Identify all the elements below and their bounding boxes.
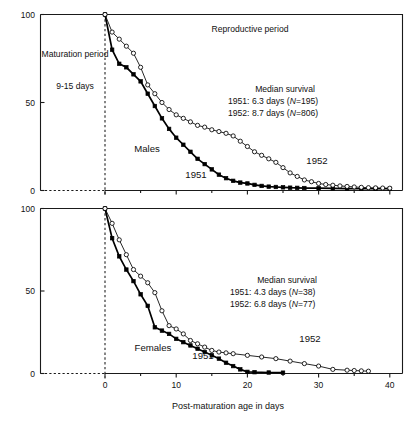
marker-1951 [174, 337, 178, 341]
marker-1952 [338, 184, 342, 188]
marker-1951 [288, 186, 292, 190]
marker-1951 [110, 236, 114, 240]
marker-1952 [345, 368, 349, 372]
marker-1952 [366, 369, 370, 373]
marker-1952 [167, 324, 171, 328]
marker-1951 [139, 293, 143, 297]
marker-1952 [274, 160, 278, 164]
curve-label-1952: 1952 [299, 333, 320, 344]
panel-males: 100500Maturation period9-15 daysReproduc… [21, 10, 403, 196]
marker-1951 [132, 73, 136, 77]
maturation-period-duration: 9-15 days [56, 81, 94, 91]
marker-1951 [253, 183, 257, 187]
marker-1952 [210, 128, 214, 132]
marker-1951 [239, 368, 243, 372]
marker-1952 [359, 369, 363, 373]
y-tick-label: 50 [26, 98, 36, 108]
marker-1952 [267, 157, 271, 161]
marker-1952 [331, 367, 335, 371]
marker-1952 [260, 355, 264, 359]
marker-1951 [246, 182, 250, 186]
marker-1952 [217, 350, 221, 354]
marker-1952 [124, 44, 128, 48]
panel-females: 100500Females19511952Median survival1951… [21, 204, 403, 379]
marker-1951 [295, 186, 299, 190]
marker-1951 [174, 136, 178, 140]
marker-1952 [359, 185, 363, 189]
marker-1951 [125, 66, 129, 70]
median-survival-title: Median survival [255, 84, 315, 94]
marker-1952 [288, 171, 292, 175]
marker-1951 [125, 268, 129, 272]
marker-1951 [267, 185, 271, 189]
y-tick-label: 50 [26, 286, 36, 296]
marker-1951 [253, 370, 257, 374]
marker-1952 [195, 342, 199, 346]
marker-1952 [224, 351, 228, 355]
marker-1951 [117, 255, 121, 259]
marker-1952 [331, 183, 335, 187]
median-survival-row: 1951: 6.3 days (N=195) [228, 96, 318, 106]
marker-1951 [160, 117, 164, 121]
marker-1952 [231, 134, 235, 138]
marker-1951 [153, 326, 157, 330]
marker-1952 [238, 139, 242, 143]
marker-1951 [224, 361, 228, 365]
marker-1951 [274, 185, 278, 189]
sex-label-females: Females [135, 342, 172, 353]
marker-1951 [182, 143, 186, 147]
marker-1951 [153, 104, 157, 108]
marker-1952 [195, 123, 199, 127]
marker-1951 [217, 173, 221, 177]
marker-1952 [317, 181, 321, 185]
marker-1951 [303, 186, 307, 190]
marker-1952 [160, 100, 164, 104]
marker-1951 [182, 340, 186, 344]
x-tick-label: 10 [171, 380, 181, 390]
marker-1952 [139, 65, 143, 69]
curve-label-1952: 1952 [306, 155, 327, 166]
marker-1951 [281, 186, 285, 190]
marker-1951 [281, 371, 285, 375]
marker-1952 [174, 327, 178, 331]
marker-1952 [188, 338, 192, 342]
marker-1952 [117, 37, 121, 41]
marker-1951 [146, 92, 150, 96]
marker-1952 [174, 113, 178, 117]
marker-1952 [103, 12, 107, 16]
marker-1952 [153, 291, 157, 295]
marker-1951 [246, 370, 250, 374]
marker-1952 [153, 92, 157, 96]
x-tick-label: 40 [385, 380, 395, 390]
marker-1952 [274, 357, 278, 361]
marker-1951 [189, 344, 193, 348]
y-tick-label: 0 [30, 369, 35, 379]
marker-1952 [381, 186, 385, 190]
marker-1952 [217, 129, 221, 133]
marker-1952 [188, 120, 192, 124]
marker-1952 [146, 83, 150, 87]
median-survival-row: 1951: 4.3 days (N=38) [230, 287, 315, 297]
survival-curves-figure: 100500Maturation period9-15 daysReproduc… [0, 0, 416, 427]
marker-1952 [245, 353, 249, 357]
marker-1952 [345, 184, 349, 188]
marker-1951 [224, 176, 228, 180]
y-tick-label: 100 [21, 204, 35, 214]
marker-1952 [131, 51, 135, 55]
x-axis-title: Post-maturation age in days [172, 401, 285, 411]
marker-1952 [366, 186, 370, 190]
reproductive-period-label: Reproductive period [212, 24, 289, 34]
marker-1951 [210, 168, 214, 172]
panel-frame [41, 15, 403, 191]
marker-1952 [281, 166, 285, 170]
marker-1952 [146, 281, 150, 285]
median-survival-row: 1952: 6.8 days (N=77) [230, 299, 315, 309]
marker-1952 [110, 221, 114, 225]
curve-label-1951: 1951 [192, 350, 213, 361]
marker-1951 [260, 184, 264, 188]
marker-1952 [117, 238, 121, 242]
x-tick-label: 30 [314, 380, 324, 390]
marker-1952 [231, 352, 235, 356]
marker-1951 [132, 279, 136, 283]
y-tick-label: 0 [30, 186, 35, 196]
